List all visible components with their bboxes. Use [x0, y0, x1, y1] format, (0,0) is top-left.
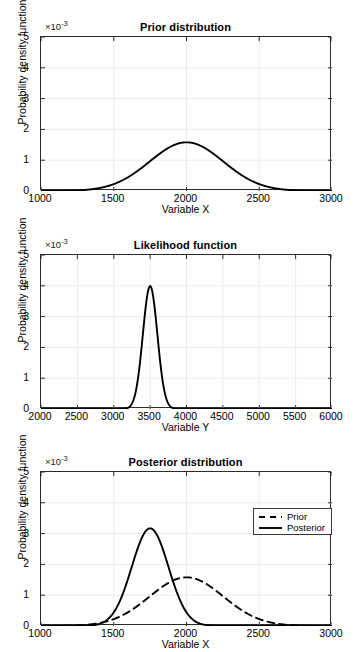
y-tick-prior-1: 1	[0, 154, 29, 165]
chart-legend-posterior: PriorPosterior	[253, 508, 332, 535]
plot-area-posterior: PriorPosterior	[40, 471, 331, 625]
chart-title-prior: Prior distribution	[40, 20, 331, 34]
x-tick-posterior-2000: 2000	[156, 627, 216, 639]
legend-entry-posterior: Posterior	[258, 523, 326, 533]
y-tick-prior-5: 5	[0, 31, 29, 42]
legend-label: Posterior	[287, 523, 325, 533]
exponent-power: -3	[61, 19, 68, 28]
exponent-prefix: ×10	[45, 21, 61, 32]
plot-area-likelihood	[40, 254, 331, 408]
y-tick-likelihood-1: 1	[0, 372, 29, 383]
x-axis-label-posterior: Variable X	[40, 638, 331, 651]
x-tick-likelihood-6000: 6000	[301, 410, 361, 422]
plot-area-prior	[40, 36, 331, 190]
y-tick-likelihood-3: 3	[0, 310, 29, 321]
x-tick-posterior-2500: 2500	[228, 627, 288, 639]
y-tick-prior-2: 2	[0, 123, 29, 134]
y-tick-posterior-2: 2	[0, 558, 29, 569]
plot-canvas-likelihood	[41, 255, 332, 409]
x-tick-prior-2500: 2500	[228, 192, 288, 204]
x-tick-prior-3000: 3000	[301, 192, 361, 204]
y-axis-exponent-prior: ×10-3	[45, 21, 68, 32]
x-tick-posterior-3000: 3000	[301, 627, 361, 639]
chart-likelihood-function: Likelihood function ×10-3 Probability de…	[0, 218, 363, 438]
chart-posterior-distribution: Posterior distribution ×10-3 Probability…	[0, 435, 363, 652]
y-tick-likelihood-5: 5	[0, 249, 29, 260]
exponent-prefix: ×10	[45, 456, 61, 467]
y-tick-prior-3: 3	[0, 92, 29, 103]
exponent-power: -3	[61, 237, 68, 246]
y-tick-posterior-4: 4	[0, 496, 29, 507]
x-axis-label-prior: Variable X	[40, 203, 331, 216]
plot-canvas-prior	[41, 37, 332, 191]
legend-line-sample-dashed	[258, 513, 283, 521]
x-axis-label-likelihood: Variable Y	[40, 421, 331, 434]
y-axis-exponent-likelihood: ×10-3	[45, 239, 68, 250]
x-tick-posterior-1000: 1000	[10, 627, 70, 639]
y-tick-prior-4: 4	[0, 61, 29, 72]
legend-label: Prior	[287, 512, 307, 522]
y-tick-posterior-1: 1	[0, 589, 29, 600]
y-tick-posterior-5: 5	[0, 466, 29, 477]
chart-title-posterior: Posterior distribution	[40, 455, 331, 469]
exponent-power: -3	[61, 454, 68, 463]
y-tick-likelihood-2: 2	[0, 341, 29, 352]
chart-prior-distribution: Prior distribution ×10-3 Probability den…	[0, 0, 363, 220]
x-tick-prior-1500: 1500	[83, 192, 143, 204]
y-tick-likelihood-4: 4	[0, 279, 29, 290]
x-tick-prior-2000: 2000	[156, 192, 216, 204]
x-tick-prior-1000: 1000	[10, 192, 70, 204]
legend-entry-prior: Prior	[258, 512, 326, 522]
chart-title-likelihood: Likelihood function	[40, 238, 331, 252]
plot-canvas-posterior	[41, 472, 332, 626]
y-axis-exponent-posterior: ×10-3	[45, 456, 68, 467]
exponent-prefix: ×10	[45, 239, 61, 250]
y-tick-posterior-3: 3	[0, 527, 29, 538]
legend-line-sample-solid	[258, 524, 283, 532]
x-tick-posterior-1500: 1500	[83, 627, 143, 639]
